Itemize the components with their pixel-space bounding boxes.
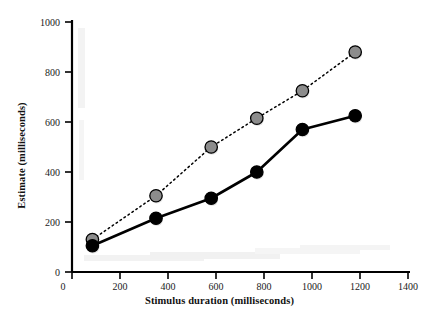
x-axis-title: Stimulus duration (milliseconds)	[0, 295, 439, 306]
x-tick-label: 200	[113, 281, 128, 292]
y-tick-label: 400	[45, 167, 60, 178]
y-axis-title: Estimate (milliseconds)	[16, 56, 27, 256]
data-point-marker	[86, 240, 98, 252]
data-point-marker	[251, 112, 263, 124]
data-point-marker	[205, 141, 217, 153]
chart-figure: 1000 800 600 400 200 0 0 200 400 600 800…	[0, 0, 439, 321]
x-tick-label: 1200	[350, 281, 370, 292]
data-point-marker	[150, 212, 162, 224]
y-tick-label: 800	[45, 67, 60, 78]
y-tick-label: 0	[55, 267, 60, 278]
data-point-marker	[349, 46, 361, 58]
x-tick-label: 0	[61, 281, 66, 292]
data-point-marker	[296, 85, 308, 97]
data-point-marker	[205, 192, 217, 204]
data-point-marker	[296, 123, 308, 135]
x-tick-label: 600	[209, 281, 224, 292]
y-tick-label: 1000	[40, 17, 60, 28]
y-tick-label: 200	[45, 217, 60, 228]
x-tick-label: 800	[257, 281, 272, 292]
x-tick-label: 1000	[302, 281, 322, 292]
y-tick-label: 600	[45, 117, 60, 128]
data-point-marker	[150, 190, 162, 202]
x-tick-label: 1400	[398, 281, 418, 292]
x-tick-label: 400	[161, 281, 176, 292]
data-point-marker	[251, 166, 263, 178]
data-point-marker	[349, 110, 361, 122]
scatter-line-plot: 1000 800 600 400 200 0 0 200 400 600 800…	[0, 0, 439, 321]
